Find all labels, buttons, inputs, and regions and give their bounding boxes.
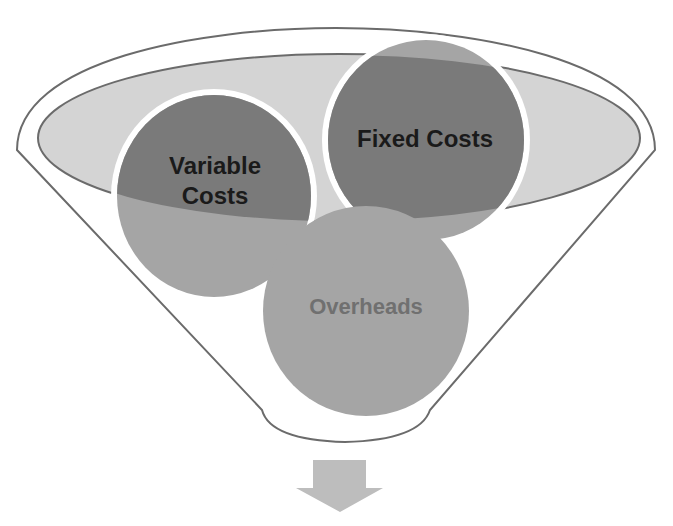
label-fixed-costs: Fixed Costs (330, 125, 520, 153)
label-variable-costs: Variable Costs (130, 151, 300, 211)
label-overheads-line1: Overheads (309, 294, 423, 319)
funnel-diagram (0, 0, 673, 526)
label-fixed-line1: Fixed Costs (357, 125, 493, 152)
label-overheads: Overheads (276, 294, 456, 320)
label-variable-line2: Costs (130, 181, 300, 211)
down-arrow-icon (296, 460, 383, 512)
label-variable-line1: Variable (130, 151, 300, 181)
